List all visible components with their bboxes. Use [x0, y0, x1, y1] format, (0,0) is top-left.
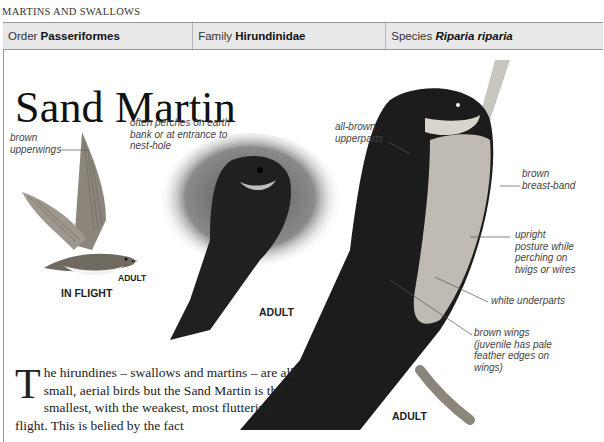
- caption-in-flight: IN FLIGHT: [61, 287, 112, 299]
- section-title: MARTINS AND SWALLOWS: [2, 6, 140, 17]
- body-paragraph: he hirundines – swallows and martins – a…: [15, 365, 294, 433]
- species-value: Riparia riparia: [435, 30, 512, 42]
- taxon-species: Species Riparia riparia: [386, 23, 603, 49]
- species-label: Species: [391, 30, 432, 42]
- caption-flight-adult: ADULT: [118, 273, 146, 283]
- annotation-nest-hole: often perches on earth bank or at entran…: [130, 117, 250, 152]
- family-label: Family: [198, 30, 232, 42]
- leader-line: [60, 148, 90, 152]
- leader-lines: [380, 130, 540, 340]
- drop-cap: T: [15, 366, 41, 402]
- taxon-order: Order Passeriformes: [3, 23, 193, 49]
- order-label: Order: [8, 30, 37, 42]
- body-text: The hirundines – swallows and martins – …: [15, 364, 295, 434]
- family-value: Hirundinidae: [235, 30, 305, 42]
- taxonomy-bar: Order Passeriformes Family Hirundinidae …: [3, 22, 603, 50]
- caption-perched-adult: ADULT: [392, 410, 427, 422]
- taxon-family: Family Hirundinidae: [193, 23, 386, 49]
- order-value: Passeriformes: [41, 30, 120, 42]
